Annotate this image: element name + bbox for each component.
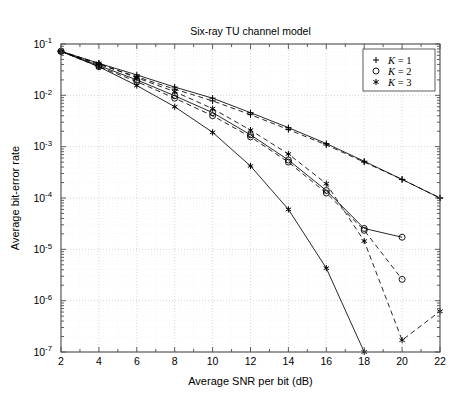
x-tick-label: 16 <box>320 355 332 367</box>
bit-error-rate-chart: 24681012141618202210-110-210-310-410-510… <box>0 0 467 393</box>
legend: K = 1K = 2K = 3 <box>363 49 435 91</box>
chart-title: Six-ray TU channel model <box>190 25 311 37</box>
x-tick-label: 6 <box>134 355 140 367</box>
x-tick-label: 4 <box>96 355 102 367</box>
figure-container: 24681012141618202210-110-210-310-410-510… <box>0 0 467 393</box>
x-tick-label: 12 <box>245 355 257 367</box>
x-axis-title: Average SNR per bit (dB) <box>188 375 313 387</box>
x-tick-label: 22 <box>434 355 446 367</box>
legend-label: K = 3 <box>387 77 411 88</box>
legend-label: K = 1 <box>387 55 411 66</box>
x-tick-label: 8 <box>172 355 178 367</box>
x-tick-label: 2 <box>58 355 64 367</box>
chart-canvas: 24681012141618202210-110-210-310-410-510… <box>0 0 467 393</box>
x-tick-label: 20 <box>396 355 408 367</box>
y-axis-title: Average bit-error rate <box>9 146 21 250</box>
x-tick-label: 14 <box>283 355 295 367</box>
x-tick-label: 18 <box>358 355 370 367</box>
x-tick-label: 10 <box>207 355 219 367</box>
legend-label: K = 2 <box>387 66 411 77</box>
